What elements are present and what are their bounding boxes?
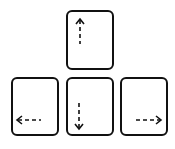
down-arrow-icon <box>68 79 112 134</box>
up-arrow-key[interactable] <box>66 10 114 70</box>
up-arrow-icon <box>68 12 112 68</box>
down-arrow-key[interactable] <box>66 77 114 136</box>
left-arrow-icon <box>13 79 57 134</box>
right-arrow-key[interactable] <box>120 77 168 136</box>
right-arrow-icon <box>122 79 166 134</box>
left-arrow-key[interactable] <box>11 77 59 136</box>
